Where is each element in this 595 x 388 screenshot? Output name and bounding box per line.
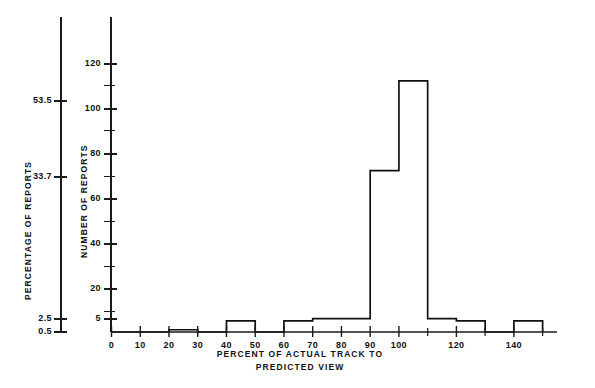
histogram-bars: [112, 81, 543, 332]
histogram-figure: 53.5 33.7 2.5 0.5 PERCENTAGE OF REPORTS …: [0, 0, 595, 388]
x-axis-title-line2: PREDICTED VIEW: [180, 362, 420, 372]
x-axis: [112, 326, 558, 337]
x-axis-tick-label: 120: [436, 341, 476, 350]
x-axis-title-line1: PERCENT OF ACTUAL TRACK TO: [180, 349, 420, 359]
x-axis-tick-label: 140: [494, 341, 534, 350]
histogram-outline: [112, 81, 543, 332]
histogram-plot: [0, 0, 595, 388]
